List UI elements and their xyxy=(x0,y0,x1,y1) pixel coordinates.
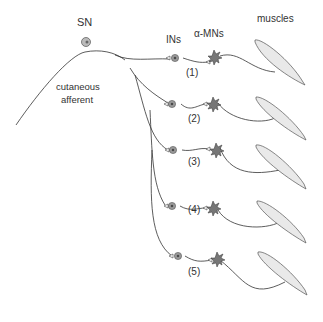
label-mns: α-MNs xyxy=(194,29,224,39)
pathway-label-2: (2) xyxy=(188,114,200,124)
interneurons xyxy=(168,54,181,259)
label-muscles: muscles xyxy=(257,14,294,24)
label-afferent-1: cutaneous xyxy=(56,82,100,92)
branch-2 xyxy=(130,68,168,103)
label-ins: INs xyxy=(166,35,181,45)
label-sn: SN xyxy=(77,17,92,28)
branch-5 xyxy=(151,150,172,256)
branch-4 xyxy=(150,110,165,205)
pathway-label-4: (4) xyxy=(188,205,200,215)
alpha-motoneurons xyxy=(207,50,225,267)
muscles xyxy=(255,40,307,295)
pathway-label-5: (5) xyxy=(188,267,200,277)
pathway-label-3: (3) xyxy=(188,157,200,167)
pathway-label-1: (1) xyxy=(186,68,198,78)
diagram-canvas xyxy=(0,0,323,322)
label-afferent-2: afferent xyxy=(61,95,93,105)
sensory-neuron-soma xyxy=(82,38,91,47)
